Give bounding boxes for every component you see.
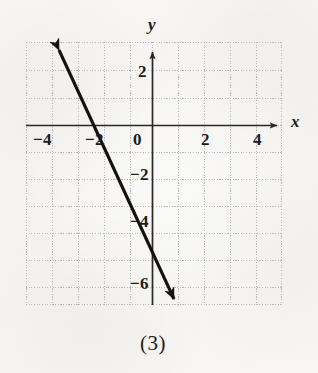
axes <box>26 52 277 305</box>
y-tick-label--6: −6 <box>130 275 149 292</box>
y-axis-label: y <box>148 16 156 33</box>
y-tick-label-2: 2 <box>138 63 147 80</box>
x-axis-label: x <box>291 113 300 130</box>
x-tick-label--4: −4 <box>33 131 52 148</box>
figure-caption: (3) <box>140 333 166 354</box>
x-tick-label-4: 4 <box>253 131 262 148</box>
plotted-line <box>59 50 174 299</box>
y-tick-label--2: −2 <box>130 166 149 183</box>
coordinate-plane <box>0 0 318 373</box>
graph-figure: −4 −2 0 2 4 2 −2 −4 −6 x y (3) <box>0 0 318 373</box>
grid-lines <box>26 42 282 305</box>
y-tick-label--4: −4 <box>130 213 149 230</box>
x-tick-label--2: −2 <box>85 131 104 148</box>
x-tick-label-0: 0 <box>133 131 142 148</box>
x-tick-label-2: 2 <box>201 131 210 148</box>
